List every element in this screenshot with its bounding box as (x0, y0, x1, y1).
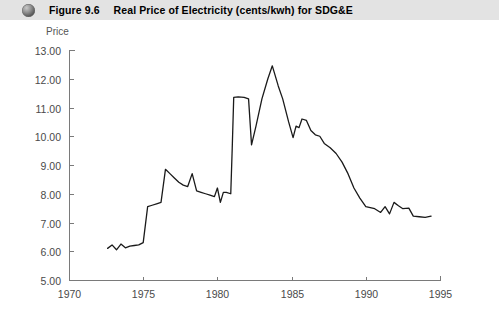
y-axis-tick-label: 13.00 (35, 45, 61, 57)
y-axis-tick-label: 8.00 (41, 189, 62, 201)
data-series-line (108, 66, 432, 250)
y-axis-tick-label: 7.00 (41, 218, 62, 230)
figure-container: Figure 9.6 Real Price of Electricity (ce… (0, 0, 499, 311)
y-axis-tick-label: 12.00 (35, 74, 61, 86)
x-axis-tick-label: 1995 (429, 288, 453, 300)
x-axis-tick-label: 1990 (355, 288, 379, 300)
sphere-bullet-icon (22, 4, 35, 17)
y-axis-tick-label: 5.00 (41, 275, 62, 287)
chart-plot-area: 5.006.007.008.009.0010.0011.0012.0013.00… (0, 20, 499, 311)
x-axis-tick-label: 1975 (132, 288, 156, 300)
chart-series-group (108, 66, 432, 250)
figure-title-label: Real Price of Electricity (cents/kwh) fo… (114, 4, 353, 16)
y-axis-tick-label: 9.00 (41, 160, 62, 172)
chart-tick-labels: 5.006.007.008.009.0010.0011.0012.0013.00… (35, 45, 453, 301)
axis-frame (70, 50, 441, 281)
line-chart-svg: 5.006.007.008.009.0010.0011.0012.0013.00… (0, 20, 499, 311)
figure-number-label: Figure 9.6 (49, 4, 100, 16)
y-axis-tick-label: 11.00 (36, 103, 62, 115)
chart-axes (70, 50, 441, 281)
y-axis-title: Price (46, 26, 69, 37)
figure-header-bar: Figure 9.6 Real Price of Electricity (ce… (0, 0, 499, 20)
y-axis-tick-label: 10.00 (35, 131, 61, 143)
y-axis-tick-label: 6.00 (41, 246, 62, 258)
x-axis-tick-label: 1985 (281, 288, 305, 300)
x-axis-tick-label: 1980 (206, 288, 230, 300)
x-axis-tick-label: 1970 (58, 288, 82, 300)
